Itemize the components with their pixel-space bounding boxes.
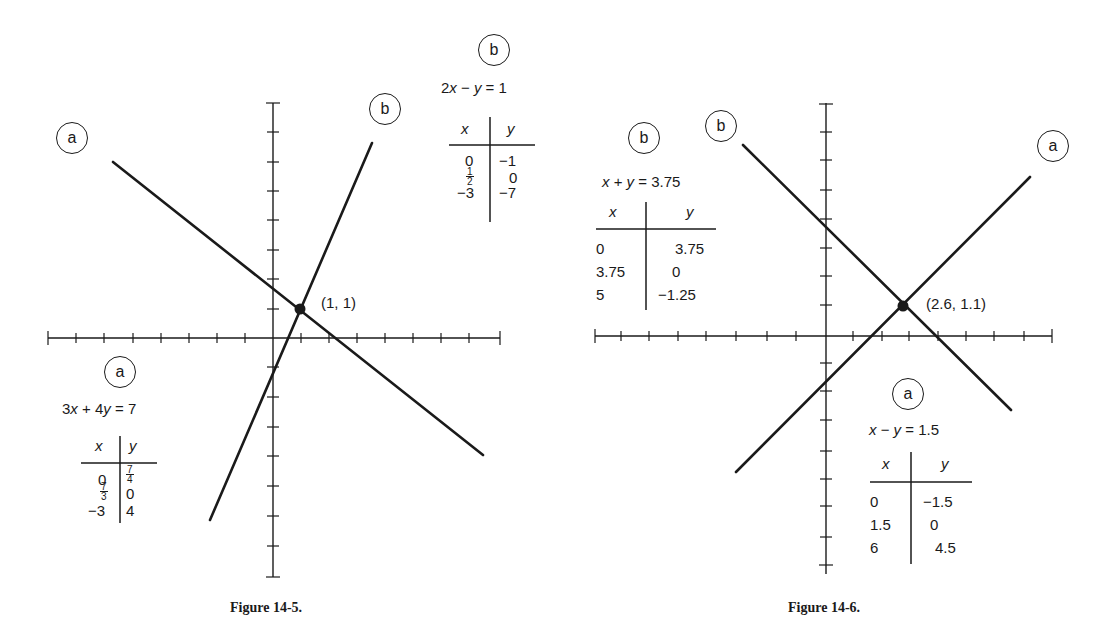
table-cell: 0: [672, 264, 680, 280]
figure-14-6-line-b-marker: b: [705, 110, 737, 142]
figure-14-6-legend-b-marker: b: [628, 122, 660, 154]
table-cell: 5: [596, 287, 604, 303]
table-cell: 6: [870, 540, 878, 556]
table-cell: 1.5: [870, 517, 891, 533]
table-header-x: x: [882, 456, 890, 472]
figure-14-6-caption: Figure 14-6.: [788, 600, 860, 616]
table-cell: 3.75: [596, 264, 625, 280]
figure-14-6-legend-a-marker: a: [892, 378, 924, 410]
table-cell: 0: [596, 241, 604, 257]
figure-14-6: b a (2.6, 1.1) b x + y = 3.75 x y 0 3.75…: [0, 0, 1118, 631]
table-header-y: y: [941, 456, 949, 472]
table-cell: 0: [930, 517, 938, 533]
table-cell: 0: [870, 494, 878, 510]
table-header-y: y: [686, 204, 694, 220]
marker-label: b: [640, 129, 649, 147]
marker-label: a: [904, 385, 913, 403]
figure-14-6-intersection-label: (2.6, 1.1): [926, 295, 986, 312]
figure-14-6-equation-a: x − y = 1.5: [869, 421, 939, 438]
table-cell: 4.5: [935, 540, 956, 556]
table-header-x: x: [609, 204, 617, 220]
marker-label: a: [1049, 137, 1058, 155]
figure-14-6-table-b: x y 0 3.75 3.75 0 5 −1.25: [596, 203, 721, 313]
table-cell: −1.25: [658, 287, 696, 303]
figure-14-6-table-a: x y 0 −1.5 1.5 0 6 4.5: [870, 455, 980, 565]
table-cell: −1.5: [923, 494, 953, 510]
table-cell: 3.75: [675, 241, 704, 257]
figure-14-6-equation-b: x + y = 3.75: [602, 173, 680, 190]
marker-label: b: [717, 117, 726, 135]
figure-14-6-line-a-marker: a: [1037, 130, 1069, 162]
